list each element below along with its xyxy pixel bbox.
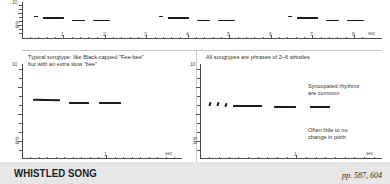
panel-top-strip: 10 kHz sec 1 2 3 4 [22, 2, 382, 39]
song-note [34, 16, 38, 17]
x-axis-bl-unit: sec [165, 151, 172, 156]
song-note [208, 102, 211, 106]
song-note [69, 102, 89, 104]
y-axis-top-label: 10 [12, 0, 17, 5]
song-note [288, 16, 292, 17]
panel-bottom-left: 10 kHz sec 1 [22, 64, 182, 159]
whistled-song-figure: 10 kHz sec 1 2 3 4 [0, 0, 390, 184]
song-note [225, 102, 228, 106]
x-tick-label: 4 [186, 31, 189, 37]
y-axis-top [22, 2, 23, 39]
x-tick-label: 1 [104, 151, 107, 157]
song-note [216, 102, 219, 106]
y-axis-bottom-left [22, 64, 23, 159]
x-tick-label: 7 [310, 31, 313, 37]
x-tick-label: 5 [227, 31, 230, 37]
x-axis-top-unit: sec [368, 31, 375, 36]
song-note [274, 106, 296, 108]
song-note [159, 16, 163, 17]
song-note [168, 17, 189, 19]
song-note [233, 105, 262, 107]
x-tick-label: 3 [144, 31, 147, 37]
page-reference: pp. 587, 604 [342, 171, 382, 180]
caption-all-songtypes: All songtypes are phrases of 2–6 whistle… [206, 54, 386, 61]
song-note [347, 20, 364, 22]
song-note [310, 106, 330, 108]
x-tick-label: 6 [269, 31, 272, 37]
panel-bottom-right: 10 kHz sec 1 [200, 64, 382, 159]
song-note [197, 20, 210, 21]
y-axis-bl-label: 10 [12, 61, 17, 67]
x-tick-label: 1 [294, 151, 297, 157]
song-note [297, 17, 318, 19]
x-tick-label: 1 [61, 31, 64, 37]
x-axis-br-unit: sec [366, 151, 373, 156]
x-tick-label: 2 [103, 31, 106, 37]
x-tick-label: 8 [352, 31, 355, 37]
song-note [33, 99, 60, 101]
song-note [93, 20, 110, 22]
footer-band: WHISTLED SONG pp. 587, 604 [0, 162, 390, 184]
x-axis-bottom-left [22, 158, 182, 159]
song-note [326, 20, 339, 21]
divider-horizontal [22, 50, 382, 51]
section-title: WHISTLED SONG [14, 167, 97, 179]
y-axis-br-label: 10 [190, 61, 195, 67]
song-note [218, 20, 235, 22]
y-axis-bottom-right [200, 64, 201, 159]
song-note [72, 20, 85, 21]
song-note [43, 17, 64, 19]
x-axis-top [22, 38, 382, 39]
song-note [99, 102, 121, 104]
